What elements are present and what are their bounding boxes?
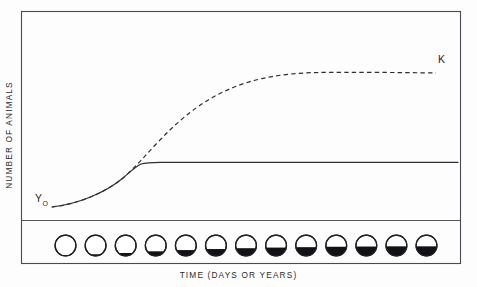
label-initial-subscript: O bbox=[43, 200, 49, 207]
label-initial-symbol: Y bbox=[35, 192, 42, 204]
population-growth-figure: Y O K TIME (DAYS OR YEARS) NUMBER OF ANI… bbox=[0, 0, 477, 287]
y-axis-label: NUMBER OF ANIMALS bbox=[4, 81, 14, 189]
x-axis-label: TIME (DAYS OR YEARS) bbox=[180, 270, 298, 280]
figure-root: Y O K TIME (DAYS OR YEARS) NUMBER OF ANI… bbox=[0, 0, 477, 287]
label-carrying-capacity: K bbox=[438, 53, 445, 65]
